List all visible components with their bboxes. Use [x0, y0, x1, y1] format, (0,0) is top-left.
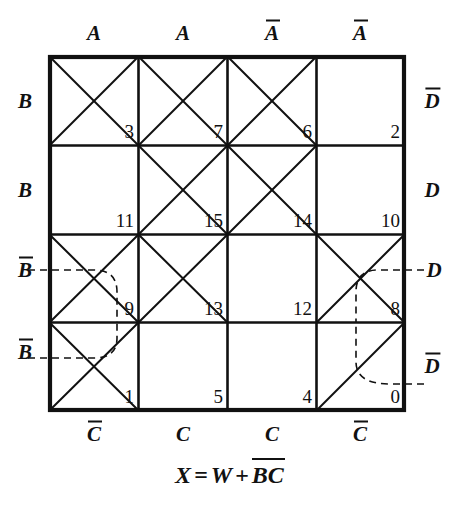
dash-bbar-row3 [28, 323, 117, 358]
label-bottom-col-2: C [265, 424, 279, 445]
label-right-row-2: D [426, 260, 441, 281]
label-bottom-col-1: C [176, 424, 190, 445]
dashed-overlays [28, 270, 424, 384]
equation-term2-var1: B [252, 462, 268, 489]
cell-number-15: 15 [204, 210, 223, 232]
label-top-col-2: A [265, 23, 279, 44]
cell-number-2: 2 [391, 121, 401, 143]
kmap-canvas [0, 0, 459, 511]
cell-number-5: 5 [214, 386, 224, 408]
equation-term1: W [211, 462, 232, 488]
equation-plus: + [232, 462, 252, 488]
cell-number-10: 10 [381, 210, 400, 232]
cell-number-0: 0 [391, 386, 401, 408]
cell-number-8: 8 [391, 298, 401, 320]
cell-number-13: 13 [204, 298, 223, 320]
equation-equals: = [191, 462, 211, 488]
label-right-row-0: D [424, 91, 439, 112]
label-right-row-3: D [424, 356, 439, 377]
label-left-row-1: B [18, 180, 32, 201]
cell-number-9: 9 [125, 298, 135, 320]
result-equation: X=W+BC [0, 462, 459, 489]
cell-number-6: 6 [303, 121, 313, 143]
label-bottom-col-3: C [353, 424, 367, 445]
label-right-row-1: D [424, 180, 439, 201]
label-bottom-col-0: C [87, 424, 101, 445]
label-left-row-0: B [18, 91, 32, 112]
cell-number-11: 11 [116, 210, 134, 232]
cell-number-4: 4 [303, 386, 313, 408]
label-top-col-1: A [176, 23, 190, 44]
cell-number-1: 1 [125, 386, 135, 408]
dash-bbar-row2 [28, 270, 117, 322]
dash-dbar-row3 [356, 323, 424, 384]
cell-number-14: 14 [293, 210, 312, 232]
label-top-col-0: A [87, 23, 101, 44]
equation-term2-var2: C [268, 462, 284, 489]
veitch-diagram: A A A A C C C C B B B B D D D D 3 7 6 2 … [0, 0, 459, 511]
equation-lhs: X [175, 462, 191, 488]
cell-number-7: 7 [214, 121, 224, 143]
cell-number-12: 12 [293, 298, 312, 320]
label-top-col-3: A [353, 23, 367, 44]
cell-number-3: 3 [125, 121, 135, 143]
label-left-row-2: B [18, 260, 32, 281]
label-left-row-3: B [18, 342, 32, 363]
